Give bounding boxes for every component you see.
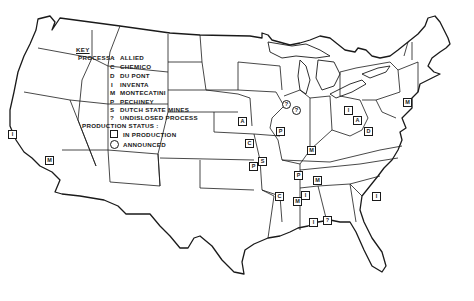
plant-marker-in-production: M bbox=[403, 98, 412, 107]
legend-process-code-d: D bbox=[110, 72, 115, 79]
legend-process-name-chemico: CHEMICO bbox=[120, 63, 151, 70]
plant-marker-in-production: M bbox=[307, 146, 316, 155]
plant-marker-in-production: P bbox=[276, 127, 285, 136]
plant-marker-in-production: P bbox=[249, 162, 258, 171]
plant-marker-in-production: I bbox=[344, 106, 353, 115]
plant-marker-in-production: M bbox=[45, 156, 54, 165]
legend-process-name-montecatini: MONTECATINI bbox=[120, 89, 166, 96]
square-symbol-icon bbox=[110, 130, 118, 138]
plant-marker-in-production: I bbox=[301, 191, 310, 200]
legend-process-name-undisclosed: UNDISLOSED PROCESS bbox=[120, 114, 198, 121]
plant-marker-in-production: P bbox=[294, 171, 303, 180]
plant-marker-in-production: D bbox=[364, 127, 373, 136]
plant-marker-in-production: C bbox=[275, 192, 284, 201]
legend-process-code-i: I bbox=[111, 81, 113, 88]
plant-marker-in-production: A bbox=[238, 117, 247, 126]
legend-process-code-m: M bbox=[110, 89, 115, 96]
us-map bbox=[0, 0, 474, 301]
legend-process-code-undisclosed: ? bbox=[110, 114, 114, 121]
legend-process-name-dsm: DUTCH STATE MINES bbox=[120, 106, 189, 113]
legend-process-name-pechiney: PECHINEY bbox=[120, 98, 154, 105]
plant-marker-in-production: S bbox=[258, 157, 267, 166]
legend-process-code-a: A bbox=[110, 54, 115, 61]
legend-process-name-inventa: INVENTA bbox=[120, 81, 149, 88]
plant-marker-in-production: M bbox=[313, 176, 322, 185]
plant-marker-announced: ? bbox=[282, 100, 291, 109]
legend-status-label: PRODUCTION STATUS : bbox=[82, 122, 159, 129]
plant-marker-announced: ? bbox=[292, 106, 301, 115]
plant-marker-in-production: I bbox=[8, 130, 17, 139]
legend-status-announced: ANNOUNCED bbox=[123, 141, 166, 148]
legend-process-code-s: S bbox=[110, 106, 114, 113]
legend-status-in-production: IN PRODUCTION bbox=[123, 131, 176, 138]
plant-marker-in-production: I bbox=[372, 192, 381, 201]
legend-process-name-dupont: DU PONT bbox=[120, 72, 150, 79]
circle-symbol-icon bbox=[110, 140, 119, 149]
plant-marker-in-production: I bbox=[309, 218, 318, 227]
great-lakes bbox=[268, 42, 390, 98]
plant-marker-in-production: A bbox=[353, 116, 362, 125]
legend-process-code-c: C bbox=[110, 63, 115, 70]
plant-marker-in-production: M bbox=[293, 197, 302, 206]
legend-process-code-p: P bbox=[110, 98, 114, 105]
legend-title: KEY bbox=[76, 46, 90, 53]
legend-process-name-allied: ALLIED bbox=[120, 54, 144, 61]
plant-marker-in-production: C bbox=[245, 139, 254, 148]
plant-marker-in-production: ? bbox=[323, 216, 332, 225]
